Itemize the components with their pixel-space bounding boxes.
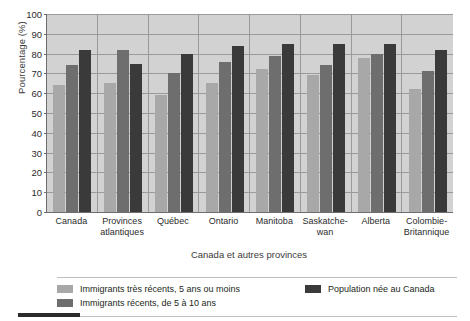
legend-item[interactable]: Immigrants très récents, 5 ans ou moins	[57, 283, 305, 295]
x-axis-label: Canada	[46, 216, 97, 238]
bar	[79, 50, 91, 212]
x-axis-title: Canada et autres provinces	[46, 249, 452, 260]
bar	[256, 69, 268, 212]
y-axis-tick-label: 100	[26, 9, 42, 20]
bar-group	[352, 14, 403, 212]
y-axis-tick-label: 80	[31, 48, 42, 59]
bar-group	[301, 14, 352, 212]
bar-chart: Pourcentage (%) 1009080706050403020100 C…	[0, 0, 470, 321]
bar	[104, 83, 116, 212]
bar	[130, 64, 142, 213]
legend-items: Immigrants très récents, 5 ans ou moinsP…	[57, 283, 457, 311]
x-axis-labels: CanadaProvinces atlantiquesQuébecOntario…	[46, 216, 452, 238]
footer-rule	[18, 313, 80, 317]
bar	[53, 85, 65, 212]
bar	[269, 56, 281, 212]
y-axis-tick-label: 40	[31, 127, 42, 138]
bar	[371, 54, 383, 212]
y-axis-tick-label: 20	[31, 167, 42, 178]
bar-group	[199, 14, 250, 212]
bar	[333, 44, 345, 212]
y-axis-tick-label: 10	[31, 187, 42, 198]
legend-swatch-icon	[57, 285, 73, 293]
plot-area: 1009080706050403020100	[46, 14, 453, 213]
bar	[219, 62, 231, 212]
x-axis-label: Alberta	[351, 216, 402, 238]
bar-group	[47, 14, 98, 212]
y-axis-tick-label: 30	[31, 147, 42, 158]
bar	[282, 44, 294, 212]
legend-item[interactable]: Immigrants récents, de 5 à 10 ans	[57, 297, 305, 309]
x-axis-label: Provinces atlantiques	[97, 216, 148, 238]
bar	[155, 95, 167, 212]
bar-group	[98, 14, 149, 212]
x-axis-label: Saskatche-wan	[300, 216, 351, 238]
bar-group	[402, 14, 453, 212]
bar	[66, 65, 78, 212]
bar	[320, 65, 332, 212]
legend-label: Immigrants récents, de 5 à 10 ans	[80, 297, 216, 309]
bar-group	[149, 14, 200, 212]
bar	[181, 54, 193, 212]
bar-group	[250, 14, 301, 212]
legend-swatch-icon	[57, 299, 73, 307]
x-axis-label: Québec	[148, 216, 199, 238]
y-axis-title: Pourcentage (%)	[16, 0, 27, 123]
x-axis-label: Manitoba	[249, 216, 300, 238]
x-axis-label: Ontario	[198, 216, 249, 238]
legend-swatch-icon	[305, 285, 321, 293]
bar-groups	[47, 14, 453, 212]
legend-label: Immigrants très récents, 5 ans ou moins	[80, 283, 240, 295]
x-axis-label: Colombie-Britannique	[401, 216, 452, 238]
legend-label: Population née au Canada	[328, 283, 435, 295]
y-axis-tick-label: 60	[31, 88, 42, 99]
bar	[422, 71, 434, 212]
bar	[232, 46, 244, 212]
legend-item[interactable]: Population née au Canada	[305, 283, 457, 295]
y-axis-tick-label: 50	[31, 108, 42, 119]
bar	[384, 44, 396, 212]
bar	[117, 50, 129, 212]
y-axis-tick-mark	[44, 212, 47, 213]
legend: Immigrants très récents, 5 ans ou moinsP…	[57, 277, 457, 317]
y-axis-tick-label: 70	[31, 68, 42, 79]
bar	[206, 83, 218, 212]
bar	[409, 89, 421, 212]
y-axis-tick-label: 90	[31, 28, 42, 39]
bar	[435, 50, 447, 212]
y-axis-tick-label: 0	[37, 207, 42, 218]
bar	[168, 73, 180, 212]
bar	[307, 75, 319, 212]
bar	[358, 58, 370, 212]
